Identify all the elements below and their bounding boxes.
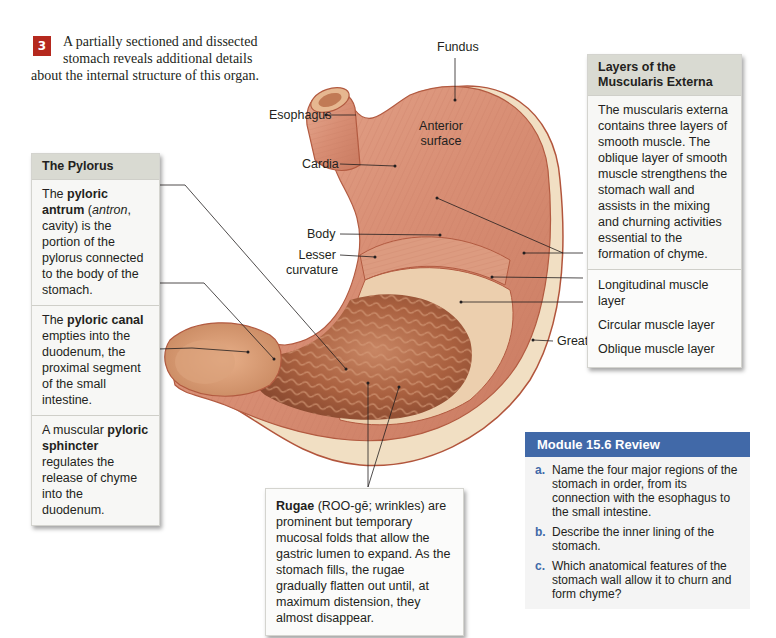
pyloric-antrum-section: The pyloric antrum (antron, cavity) is t… [32, 179, 159, 305]
review-question-b: b. Describe the inner lining of the stom… [525, 519, 750, 553]
intro-line-1: A partially sectioned and dissected [63, 34, 257, 49]
intro-line-2: stomach reveals additional details [63, 51, 252, 66]
pyloric-canal-section: The pyloric canal empties into the duode… [32, 305, 159, 415]
review-question-a: a. Name the four major regions of the st… [525, 457, 750, 519]
intro-caption: A partially sectioned and dissected stom… [31, 33, 271, 84]
review-question-c: c. Which anatomical features of the stom… [525, 553, 750, 601]
label-body: Body [307, 227, 336, 242]
label-esophagus: Esophagus [269, 108, 332, 123]
label-oblique-layer: Oblique muscle layer [588, 337, 741, 361]
muscle-layer-list: Longitudinal muscle layer Circular muscl… [588, 269, 741, 367]
label-anterior-surface: Anterior surface [416, 119, 466, 149]
label-fundus: Fundus [437, 40, 479, 55]
module-review-box: Module 15.6 Review a. Name the four majo… [525, 432, 750, 609]
label-longitudinal-layer: Longitudinal muscle layer [588, 273, 741, 313]
muscularis-description: The muscularis externa contains three la… [588, 95, 741, 269]
muscularis-box-title: Layers of the Muscularis Externa [588, 55, 741, 95]
label-cardia: Cardia [302, 157, 339, 172]
label-lesser-line-1: Lesser [286, 248, 336, 263]
pylorus-info-box: The Pylorus The pyloric antrum (antron, … [31, 153, 160, 526]
rugae-description: Rugae (ROO-gē; wrinkles) are prominent b… [266, 489, 463, 635]
label-anterior-line-2: surface [416, 134, 466, 149]
intro-line-3: about the internal structure of this org… [31, 67, 271, 84]
label-circular-layer: Circular muscle layer [588, 313, 741, 337]
pyloric-sphincter-section: A muscular pyloric sphincter regulates t… [32, 415, 159, 525]
pylorus-box-title: The Pylorus [32, 154, 159, 179]
review-title: Module 15.6 Review [525, 432, 750, 457]
label-lesser-curvature: Lesser curvature [286, 248, 336, 278]
label-lesser-line-2: curvature [286, 263, 336, 278]
rugae-info-box: Rugae (ROO-gē; wrinkles) are prominent b… [265, 488, 464, 636]
muscularis-externa-box: Layers of the Muscularis Externa The mus… [587, 54, 742, 368]
label-anterior-line-1: Anterior [416, 119, 466, 134]
